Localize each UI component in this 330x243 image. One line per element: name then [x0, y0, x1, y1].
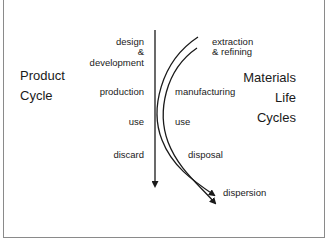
materials-title-line3: Cycles — [243, 111, 296, 124]
stage-disposal: disposal — [188, 150, 223, 160]
stage-dispersion: dispersion — [223, 188, 266, 198]
product-cycle-title-line1: Product — [20, 69, 65, 82]
stage-discard: discard — [113, 150, 144, 160]
stage-design-development: design & development — [90, 37, 144, 68]
stage-material-use: use — [175, 117, 190, 127]
materials-title-line2: Life — [243, 91, 296, 104]
materials-life-cycles-title: Materials Life Cycles — [243, 71, 296, 124]
stage-product-use: use — [129, 117, 144, 127]
product-cycle-title-line2: Cycle — [20, 89, 65, 102]
product-cycle-title: Product Cycle — [20, 69, 65, 102]
materials-title-line1: Materials — [243, 71, 296, 84]
stage-production: production — [100, 87, 144, 97]
stage-extraction-refining: extraction & refining — [212, 37, 253, 58]
stage-manufacturing: manufacturing — [175, 87, 235, 97]
